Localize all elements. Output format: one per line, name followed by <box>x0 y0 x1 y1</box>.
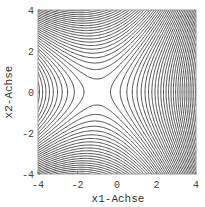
x-tick-label: 0 <box>114 180 120 191</box>
y-tick-label: 2 <box>28 47 34 58</box>
x-tick-label: 4 <box>193 180 199 191</box>
y-tick-label: 4 <box>28 6 34 17</box>
y-tick-label: -4 <box>22 170 34 181</box>
contour-chart: -4-2024 -4-2024 x1-Achse x2-Achse <box>0 0 205 207</box>
x-axis-label: x1-Achse <box>92 193 145 205</box>
y-axis-label: x2-Achse <box>3 66 15 119</box>
y-tick-label: 0 <box>28 88 34 99</box>
y-tick-label: -2 <box>22 129 34 140</box>
x-tick-label: -2 <box>71 180 83 191</box>
x-tick-label: 2 <box>153 180 159 191</box>
x-tick-label: -4 <box>32 180 44 191</box>
